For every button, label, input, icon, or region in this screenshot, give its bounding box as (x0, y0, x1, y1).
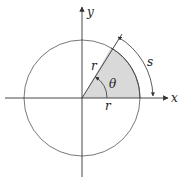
y-axis-label: y (86, 5, 94, 19)
radius-ray-label: r (91, 59, 98, 73)
radius-axis-label: r (105, 99, 112, 113)
circle-diagram: y x r r θ s (0, 0, 178, 182)
theta-label: θ (109, 77, 117, 91)
x-axis-label: x (171, 91, 178, 105)
arc-length-label: s (147, 55, 153, 69)
